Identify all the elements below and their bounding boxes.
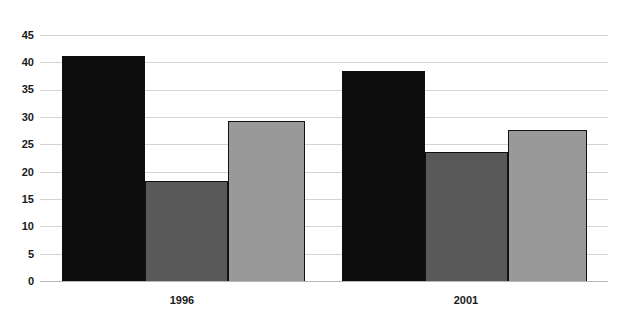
y-tick-label-15: 15 xyxy=(0,194,34,205)
y-tick-label-40: 40 xyxy=(0,57,34,68)
y-tick-label-45: 45 xyxy=(0,30,34,41)
bar-2001-series-1 xyxy=(342,71,425,281)
y-tick-label-0: 0 xyxy=(0,276,34,287)
bar-1996-series-2 xyxy=(145,181,228,281)
bar-2001-series-2 xyxy=(425,152,508,281)
y-tick-label-25: 25 xyxy=(0,139,34,150)
x-tick-label-1996: 1996 xyxy=(152,294,212,306)
bars-layer xyxy=(62,30,612,281)
x-axis-baseline xyxy=(40,281,608,282)
y-tick-label-5: 5 xyxy=(0,249,34,260)
bar-1996-series-1 xyxy=(62,56,145,281)
bar-1996-series-3 xyxy=(228,121,305,281)
bar-2001-series-3 xyxy=(508,130,587,281)
x-tick-label-2001: 2001 xyxy=(436,294,496,306)
plot-area xyxy=(40,30,612,286)
y-tick-label-20: 20 xyxy=(0,167,34,178)
y-tick-label-35: 35 xyxy=(0,84,34,95)
bar-chart: 45 40 35 30 25 20 15 10 5 0 xyxy=(0,0,624,332)
y-tick-label-10: 10 xyxy=(0,221,34,232)
y-axis-labels: 45 40 35 30 25 20 15 10 5 0 xyxy=(0,30,34,286)
y-tick-label-30: 30 xyxy=(0,112,34,123)
